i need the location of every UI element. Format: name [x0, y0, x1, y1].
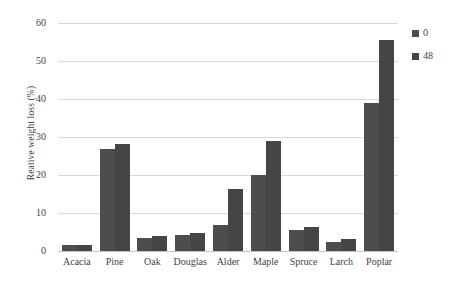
- bar-larch-series-48: [341, 239, 356, 251]
- y-axis-tick-label: 20: [36, 170, 46, 180]
- bar-chart: Reative weight loss (%) 6050403020100 Ac…: [0, 0, 450, 287]
- bar-spruce-series-0: [289, 230, 304, 251]
- x-axis-category-labels: AcaciaPineOakDouglasAlderMapleSpruceLarc…: [58, 256, 398, 267]
- legend-swatch-icon: [412, 30, 419, 37]
- bar-oak-series-48: [152, 236, 167, 251]
- bar-pine-series-0: [100, 149, 115, 251]
- y-axis-tick-label: 0: [41, 246, 46, 256]
- bar-group: [171, 23, 209, 251]
- legend-item-0[interactable]: 0: [412, 28, 450, 38]
- bar-maple-series-48: [266, 141, 281, 251]
- y-axis-tick-label: 40: [36, 94, 46, 104]
- bar-group: [96, 23, 134, 251]
- x-axis-label-acacia: Acacia: [58, 256, 96, 267]
- legend-swatch-icon: [412, 53, 419, 60]
- bar-group: [209, 23, 247, 251]
- plot-area: [58, 23, 398, 251]
- bar-group: [58, 23, 96, 251]
- bar-groups: [58, 23, 398, 251]
- x-axis-label-pine: Pine: [96, 256, 134, 267]
- bar-pine-series-48: [115, 144, 130, 251]
- x-axis-label-poplar: Poplar: [360, 256, 398, 267]
- legend-item-48[interactable]: 48: [412, 51, 450, 61]
- x-axis-label-oak: Oak: [134, 256, 172, 267]
- bar-douglas-series-0: [175, 235, 190, 251]
- bar-group: [247, 23, 285, 251]
- y-axis-tick-label: 10: [36, 208, 46, 218]
- legend: 048: [412, 28, 450, 74]
- bar-spruce-series-48: [304, 227, 319, 251]
- x-axis-label-douglas: Douglas: [171, 256, 209, 267]
- y-axis-tick-label: 50: [36, 56, 46, 66]
- bar-acacia-series-48: [77, 245, 92, 251]
- bar-alder-series-0: [213, 225, 228, 251]
- x-axis-label-spruce: Spruce: [285, 256, 323, 267]
- y-axis-tick-labels: 6050403020100: [0, 23, 52, 251]
- legend-label: 0: [423, 28, 428, 38]
- bar-oak-series-0: [137, 238, 152, 251]
- bar-group: [134, 23, 172, 251]
- y-axis-tick-label: 30: [36, 132, 46, 142]
- legend-label: 48: [423, 51, 433, 61]
- bar-alder-series-48: [228, 189, 243, 251]
- gridline: [58, 251, 398, 252]
- bar-group: [322, 23, 360, 251]
- bar-group: [285, 23, 323, 251]
- bar-group: [360, 23, 398, 251]
- bar-poplar-series-0: [364, 103, 379, 251]
- bar-larch-series-0: [326, 242, 341, 252]
- bar-douglas-series-48: [190, 233, 205, 251]
- bar-poplar-series-48: [379, 40, 394, 251]
- x-axis-label-larch: Larch: [322, 256, 360, 267]
- bar-maple-series-0: [251, 175, 266, 251]
- bar-acacia-series-0: [62, 245, 77, 251]
- x-axis-label-maple: Maple: [247, 256, 285, 267]
- x-axis-label-alder: Alder: [209, 256, 247, 267]
- y-axis-tick-label: 60: [36, 18, 46, 28]
